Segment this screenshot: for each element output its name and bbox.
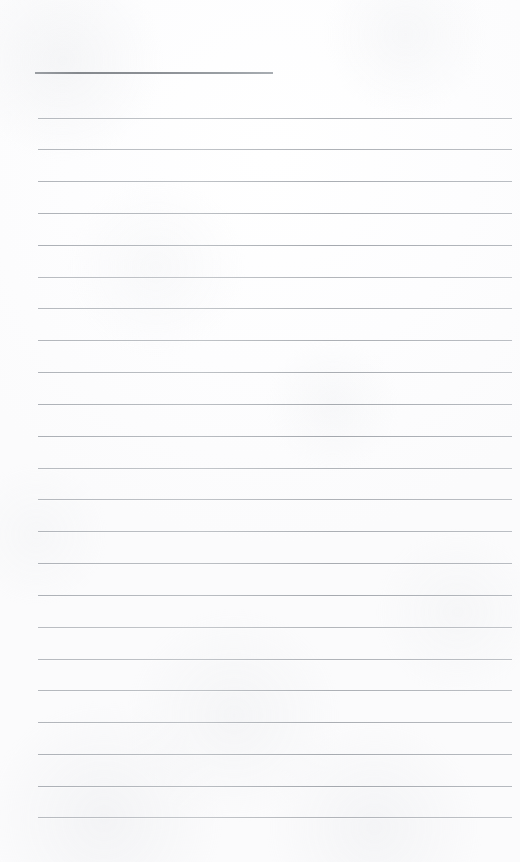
header-rule [35, 72, 273, 74]
ruled-line [38, 308, 512, 309]
ruled-line [38, 213, 512, 214]
ruled-line [38, 531, 512, 532]
ruled-line [38, 722, 512, 723]
ruled-line [38, 817, 512, 818]
ruled-line [38, 595, 512, 596]
ruled-line [38, 690, 512, 691]
ruled-line [38, 563, 512, 564]
ruled-line [38, 754, 512, 755]
paper-background [0, 0, 520, 862]
ruled-line [38, 149, 512, 150]
scanned-page [0, 0, 520, 862]
ruled-line [38, 468, 512, 469]
ruled-line [38, 659, 512, 660]
ruled-line [38, 499, 512, 500]
ruled-line [38, 118, 512, 119]
ruled-line [38, 277, 512, 278]
ruled-line [38, 436, 512, 437]
ruled-line [38, 627, 512, 628]
ruled-line [38, 372, 512, 373]
ruled-line [38, 181, 512, 182]
ruled-line [38, 340, 512, 341]
ruled-line [38, 786, 512, 787]
ruled-line [38, 404, 512, 405]
ruled-line [38, 245, 512, 246]
